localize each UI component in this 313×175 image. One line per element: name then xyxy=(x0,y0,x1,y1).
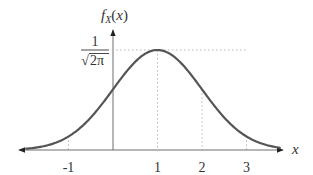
radical-sign: √ xyxy=(81,53,89,68)
x-tick-label: -1 xyxy=(63,160,75,175)
fraction-numerator: 1 xyxy=(92,34,99,49)
y-label-close-paren: ) xyxy=(123,7,128,24)
x-tick-label: 3 xyxy=(243,160,250,175)
x-tick-label: 1 xyxy=(154,160,161,175)
density-curve xyxy=(26,50,280,149)
x-tick-labels: -1123 xyxy=(63,160,250,175)
fraction-denominator: 2π xyxy=(90,53,104,68)
y-axis-label: fX(x) xyxy=(101,7,128,25)
x-tick-label: 2 xyxy=(199,160,206,175)
x-axis-label: x xyxy=(291,141,299,157)
y-tick-label-peak: 1 √ 2π xyxy=(81,34,109,68)
normal-distribution-chart: -1123 x fX(x) 1 √ 2π xyxy=(0,0,313,175)
